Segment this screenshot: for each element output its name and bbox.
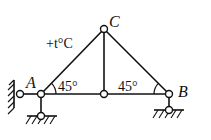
hinge-A-horizontal-pin (17, 91, 24, 98)
hinge-B (166, 91, 173, 98)
hinge-A-vertical-pin (38, 113, 45, 120)
label-C: C (109, 13, 120, 30)
label-A: A (25, 74, 36, 91)
temperature-label: +t°C (46, 36, 73, 51)
hinge-A (38, 91, 45, 98)
hinge-middle (101, 91, 108, 98)
angle-label-right: 45° (118, 79, 138, 94)
angle-arc-B (154, 83, 158, 94)
label-B: B (178, 83, 188, 100)
hinge-B-pin (166, 107, 173, 114)
angle-arc-A (52, 83, 56, 94)
truss-diagram: A B C +t°C 45° 45° (0, 0, 211, 140)
hinge-C (101, 26, 108, 33)
angle-label-left: 45° (58, 79, 78, 94)
wall-hatch-left (8, 80, 14, 114)
